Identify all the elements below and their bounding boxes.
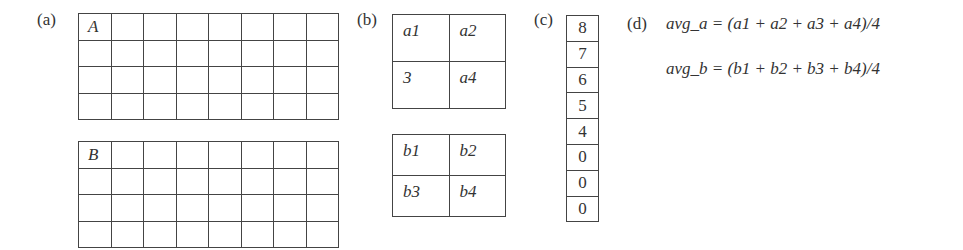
cell-label: b2: [450, 135, 506, 161]
value-cell: 0: [567, 144, 599, 170]
grid-a-label: A: [79, 14, 111, 37]
cell-label: b4: [450, 176, 506, 202]
panel-label-c: (c): [534, 10, 553, 30]
cell-label: 3: [393, 62, 449, 88]
grid-a-corner-cell: A: [79, 14, 112, 41]
panel-label-a: (a): [37, 10, 56, 30]
value-text: 0: [578, 173, 587, 192]
formula-avg-b: avg_b = (b1 + b2 + b3 + b4)/4: [666, 59, 880, 79]
quad-b-cell: b1: [393, 135, 450, 176]
value-cell: 0: [567, 196, 599, 222]
value-text: 6: [578, 70, 587, 89]
cell-label: a4: [450, 62, 506, 88]
value-cell: 8: [567, 16, 599, 42]
panel-label-d: (d): [627, 14, 647, 34]
grid-a: A: [78, 13, 339, 120]
quad-b: b1 b2 b3 b4: [392, 134, 506, 217]
grid-b-corner-cell: B: [79, 142, 112, 169]
value-text: 8: [578, 18, 587, 37]
cell-label: a2: [450, 15, 506, 41]
value-text: 7: [578, 44, 587, 63]
quad-a-cell: a2: [449, 15, 506, 62]
value-text: 0: [578, 147, 587, 166]
quad-a-cell: a1: [393, 15, 450, 62]
quad-b-cell: b3: [393, 176, 450, 217]
quad-a-cell: 3: [393, 62, 450, 109]
value-text: 0: [578, 199, 587, 218]
cell-label: b1: [393, 135, 449, 161]
value-cell: 5: [567, 93, 599, 119]
quad-b-cell: b2: [449, 135, 506, 176]
value-text: 4: [578, 122, 587, 141]
quad-a: a1 a2 3 a4: [392, 14, 506, 109]
quad-b-cell: b4: [449, 176, 506, 217]
value-column: 8 7 6 5 4 0 0 0: [566, 15, 599, 222]
quad-a-cell: a4: [449, 62, 506, 109]
value-text: 5: [578, 96, 587, 115]
value-cell: 7: [567, 41, 599, 67]
formula-avg-a: avg_a = (a1 + a2 + a3 + a4)/4: [666, 14, 880, 34]
cell-label: a1: [393, 15, 449, 41]
grid-b: B: [78, 141, 339, 248]
grid-b-label: B: [79, 142, 111, 165]
cell-label: b3: [393, 176, 449, 202]
value-cell: 6: [567, 67, 599, 93]
panel-label-b: (b): [357, 10, 377, 30]
value-cell: 0: [567, 170, 599, 196]
value-cell: 4: [567, 119, 599, 145]
